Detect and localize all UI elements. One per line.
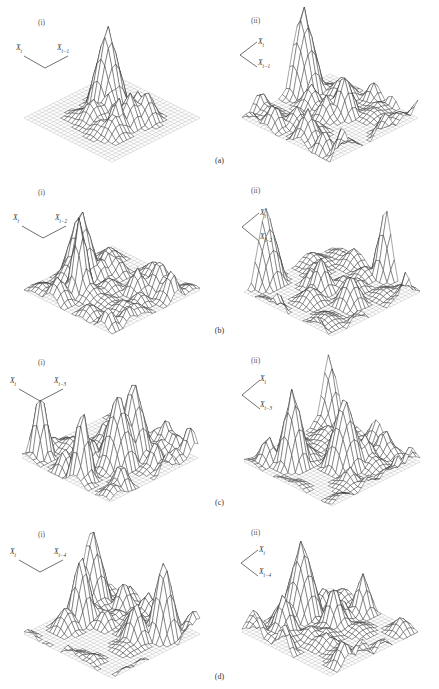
panel-caption: (ii) bbox=[251, 356, 260, 365]
panel-caption: (ii) bbox=[251, 528, 260, 537]
row-label-b: (b) bbox=[0, 326, 439, 335]
figure-row-d: (i) Xt Xt−4 (ii) Xt Xt−4 (d) bbox=[0, 522, 439, 689]
surface-plot-a-i bbox=[2, 10, 221, 168]
axis-label-y: Xt−3 bbox=[260, 400, 272, 411]
figure-surface-grid: (i) Xt Xt−1 (ii) Xt Xt−1 (a) ( bbox=[0, 0, 439, 689]
axis-label-y: Xt−2 bbox=[260, 232, 272, 243]
panel-a-ii: (ii) Xt Xt−1 bbox=[218, 10, 437, 168]
panel-caption: (i) bbox=[38, 18, 45, 27]
panel-c-i: (i) Xt Xt−3 bbox=[2, 350, 221, 508]
panel-caption: (ii) bbox=[251, 16, 260, 25]
surface-plot-b-i bbox=[2, 180, 221, 338]
panel-d-ii: (ii) Xt Xt−4 bbox=[218, 522, 437, 680]
panel-caption: (i) bbox=[38, 188, 45, 197]
surface-plot-b-ii bbox=[218, 180, 437, 338]
axis-label-y: Xt−3 bbox=[54, 376, 66, 387]
panel-c-ii: (ii) Xt Xt−3 bbox=[218, 350, 437, 508]
panel-caption: (i) bbox=[38, 358, 45, 367]
axis-label-y: Xt−4 bbox=[259, 567, 271, 578]
row-label-c: (c) bbox=[0, 498, 439, 507]
axis-label-y: Xt−1 bbox=[57, 43, 69, 54]
axis-label-y: Xt−1 bbox=[258, 58, 270, 69]
panel-d-i: (i) Xt Xt−4 bbox=[2, 522, 221, 680]
surface-plot-c-i bbox=[2, 350, 221, 508]
axis-label-x: Xt bbox=[16, 43, 22, 54]
axis-label-y: Xt−4 bbox=[54, 547, 66, 558]
axis-label-x: Xt bbox=[258, 37, 264, 48]
panel-b-i: (i) Xt Xt−2 bbox=[2, 180, 221, 338]
axis-label-x: Xt bbox=[260, 374, 266, 385]
axis-label-x: Xt bbox=[259, 545, 265, 556]
row-label-d: (d) bbox=[0, 672, 439, 681]
panel-caption: (i) bbox=[38, 530, 45, 539]
surface-plot-d-i bbox=[2, 522, 221, 680]
axis-label-x: Xt bbox=[13, 213, 19, 224]
figure-row-b: (i) Xt Xt−2 (ii) Xt Xt−2 (b) bbox=[0, 180, 439, 350]
panel-a-i: (i) Xt Xt−1 bbox=[2, 10, 221, 168]
figure-row-a: (i) Xt Xt−1 (ii) Xt Xt−1 (a) bbox=[0, 10, 439, 180]
panel-caption: (ii) bbox=[251, 186, 260, 195]
row-label-a: (a) bbox=[0, 156, 439, 165]
surface-plot-c-ii bbox=[218, 350, 437, 508]
panel-b-ii: (ii) Xt Xt−2 bbox=[218, 180, 437, 338]
axis-label-x: Xt bbox=[260, 208, 266, 219]
axis-label-x: Xt bbox=[10, 376, 16, 387]
axis-label-y: Xt−2 bbox=[55, 213, 67, 224]
surface-plot-d-ii bbox=[218, 522, 437, 680]
figure-row-c: (i) Xt Xt−3 (ii) Xt Xt−3 (c) bbox=[0, 350, 439, 520]
axis-label-x: Xt bbox=[10, 547, 16, 558]
surface-plot-a-ii bbox=[218, 10, 437, 168]
